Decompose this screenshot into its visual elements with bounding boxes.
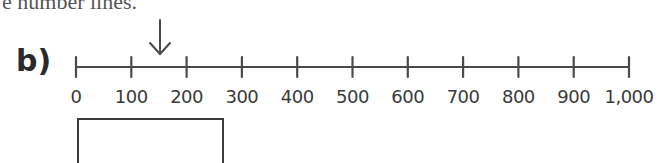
down-arrow-icon — [150, 20, 170, 54]
tick-label: 800 — [502, 86, 535, 107]
answer-box[interactable] — [77, 118, 224, 163]
tick-label: 400 — [281, 86, 314, 107]
tick-label: 1,000 — [604, 86, 653, 107]
tick-label: 300 — [225, 86, 258, 107]
tick-label: 200 — [170, 86, 203, 107]
tick-label: 600 — [391, 86, 424, 107]
tick-label: 0 — [71, 86, 82, 107]
tick-label: 900 — [557, 86, 590, 107]
tick-label: 100 — [115, 86, 148, 107]
tick-label: 500 — [336, 86, 369, 107]
tick-label: 700 — [447, 86, 480, 107]
